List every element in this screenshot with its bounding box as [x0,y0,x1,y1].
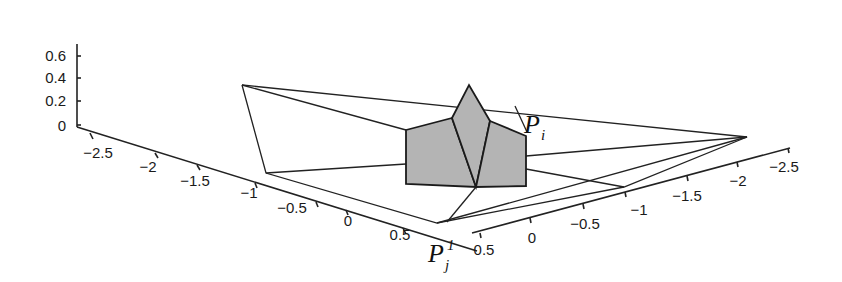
right-axis-tick-label: −2.5 [769,158,799,175]
z-tick-label: 0.6 [45,47,66,64]
central-cell-faces [406,85,526,187]
right-axis-tick-label: −1 [630,201,647,218]
z-tick-label: 0 [58,117,66,134]
left-axis-tick-label: −2.5 [83,144,113,161]
svg-text:P: P [427,239,444,268]
left-axis-tick-label: 0 [344,212,352,229]
right-axis-tick-label: 0 [528,229,536,246]
svg-text:P: P [523,110,540,139]
z-axis: 0.6 0.4 0.2 0 [45,44,81,134]
left-axis-tick-label: −1.5 [180,172,210,189]
right-axis-tick-label: −1.5 [672,187,702,204]
right-axis-tick-label: −2 [729,172,746,189]
right-axis-tick-label: −0.5 [570,215,600,232]
left-axis-tick-label: 0.5 [390,226,411,243]
label-p-i: P i [523,110,545,143]
right-axis-tick-label: 0.5 [474,241,495,258]
left-axis-tick-label: −2 [139,158,156,175]
z-tick-label: 0.2 [45,92,66,109]
left-axis-tick-label: −0.5 [277,199,307,216]
label-p-j1: P 1 j [427,237,455,273]
svg-text:1: 1 [447,237,455,253]
z-tick-label: 0.4 [45,69,66,86]
svg-text:i: i [541,127,545,143]
3d-surface-figure: 0.6 0.4 0.2 0 −2.5 −2 −1.5 −1 −0.5 0 0.5… [0,0,842,282]
svg-text:j: j [443,257,449,273]
left-axis-tick-label: −1 [240,184,257,201]
